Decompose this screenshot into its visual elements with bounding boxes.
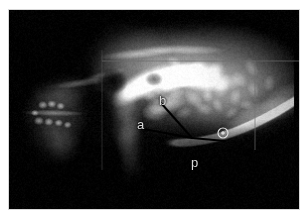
radiograph-image [9,10,299,209]
figure-root: b a p [0,0,308,219]
annotation-label-a: a [137,118,144,131]
radiograph-plate: b a p [8,9,300,210]
annotation-label-p: p [191,156,198,169]
annotation-label-b: b [159,94,166,107]
